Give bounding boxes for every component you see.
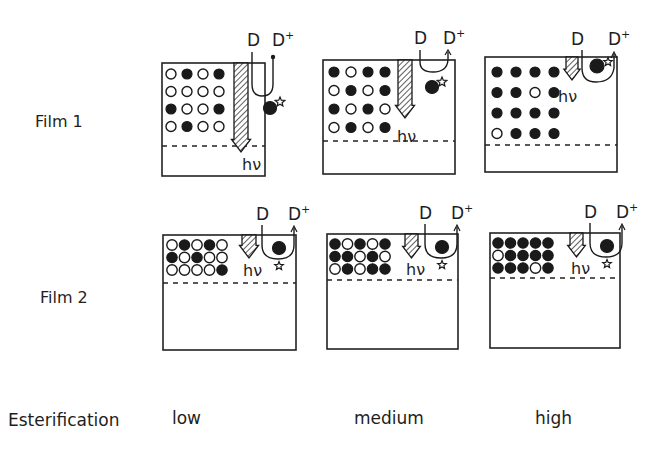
- esterified-site-filled-circle: [167, 252, 177, 262]
- dye-label: D: [414, 28, 427, 48]
- dye-molecule-icon: [590, 59, 604, 73]
- esterified-site-filled-circle: [342, 264, 352, 274]
- light-beam-arrow: [568, 233, 586, 257]
- free-site-open-circle: [492, 129, 502, 139]
- esterified-site-filled-circle: [549, 108, 559, 118]
- column-label-low: low: [172, 408, 201, 428]
- esterification-film-diagram: Film 1 Film 2 Esterification low medium …: [0, 0, 649, 462]
- free-site-open-circle: [179, 252, 189, 262]
- loop-end-dot: [271, 55, 275, 59]
- excited-star-icon: [438, 261, 447, 269]
- esterified-site-filled-circle: [549, 67, 559, 77]
- esterified-site-filled-circle: [505, 263, 515, 273]
- esterified-site-filled-circle: [492, 67, 502, 77]
- esterified-site-filled-circle: [363, 67, 373, 77]
- free-site-open-circle: [329, 123, 339, 133]
- dye-label: D: [256, 204, 269, 224]
- panel-film2-medium: hνDD+: [327, 202, 473, 349]
- dye-cation-label: D+: [608, 28, 630, 49]
- free-site-open-circle: [166, 122, 176, 132]
- esterified-site-filled-circle: [543, 263, 553, 273]
- esterified-site-filled-circle: [511, 129, 521, 139]
- excited-star-icon: [275, 97, 285, 106]
- free-site-open-circle: [355, 251, 365, 261]
- panels-group: hνDD+hνDD+hνDD+hνDD+hνDD+hνDD+: [162, 27, 638, 350]
- free-site-open-circle: [167, 240, 177, 250]
- free-site-open-circle: [204, 252, 214, 262]
- dye-cation-label: D+: [451, 202, 473, 223]
- photon-hv-label: hν: [242, 155, 261, 174]
- free-site-open-circle: [380, 251, 390, 261]
- esterified-site-filled-circle: [342, 251, 352, 261]
- free-site-open-circle: [198, 69, 208, 79]
- esterified-site-filled-circle: [329, 67, 339, 77]
- photon-hv-label: hν: [397, 127, 416, 146]
- free-site-open-circle: [346, 67, 356, 77]
- esterified-site-filled-circle: [493, 238, 503, 248]
- esterified-site-filled-circle: [493, 263, 503, 273]
- esterified-site-filled-circle: [217, 265, 227, 275]
- light-beam-arrow: [239, 235, 258, 258]
- light-beam-arrow: [395, 60, 414, 118]
- column-label-medium: medium: [354, 408, 424, 428]
- free-site-open-circle: [214, 87, 224, 97]
- esterified-site-filled-circle: [505, 238, 515, 248]
- esterified-site-filled-circle: [530, 238, 540, 248]
- free-site-open-circle: [192, 265, 202, 275]
- dye-cation-label: D+: [443, 27, 465, 48]
- free-site-open-circle: [530, 263, 540, 273]
- esterified-site-filled-circle: [204, 240, 214, 250]
- esterified-site-filled-circle: [182, 69, 192, 79]
- excited-star-icon: [604, 58, 613, 66]
- esterified-site-filled-circle: [380, 67, 390, 77]
- free-site-open-circle: [179, 265, 189, 275]
- panel-film1-low: hνDD+: [162, 29, 294, 176]
- esterified-site-filled-circle: [192, 252, 202, 262]
- free-site-open-circle: [166, 87, 176, 97]
- free-site-open-circle: [493, 250, 503, 260]
- esterified-site-filled-circle: [543, 250, 553, 260]
- panel-film2-low: hνDD+: [163, 203, 310, 350]
- esterified-site-filled-circle: [530, 108, 540, 118]
- esterified-site-filled-circle: [346, 123, 356, 133]
- panel-film1-high: hνDD+: [485, 28, 630, 172]
- free-site-open-circle: [380, 104, 390, 114]
- free-site-open-circle: [182, 104, 192, 114]
- dye-cation-label: D+: [272, 29, 294, 50]
- free-site-open-circle: [363, 123, 373, 133]
- esterified-site-filled-circle: [380, 123, 390, 133]
- free-site-open-circle: [217, 240, 227, 250]
- excited-star-icon: [275, 262, 284, 270]
- esterified-site-filled-circle: [511, 67, 521, 77]
- light-beam-arrow: [403, 234, 421, 258]
- esterified-site-filled-circle: [166, 104, 176, 114]
- free-site-open-circle: [367, 239, 377, 249]
- photon-hv-label: hν: [406, 260, 425, 279]
- esterified-site-filled-circle: [355, 239, 365, 249]
- esterified-site-filled-circle: [511, 108, 521, 118]
- free-site-open-circle: [192, 240, 202, 250]
- free-site-open-circle: [198, 104, 208, 114]
- free-site-open-circle: [204, 265, 214, 275]
- esterified-site-filled-circle: [380, 239, 390, 249]
- esterified-site-filled-circle: [518, 263, 528, 273]
- row-label-film-2: Film 2: [40, 288, 88, 307]
- esterified-site-filled-circle: [380, 86, 390, 96]
- free-site-open-circle: [363, 86, 373, 96]
- light-beam-arrow: [231, 63, 250, 152]
- dye-cation-label: D+: [288, 203, 310, 224]
- dye-molecule-icon: [264, 102, 277, 115]
- free-site-open-circle: [214, 122, 224, 132]
- esterified-site-filled-circle: [549, 129, 559, 139]
- free-site-open-circle: [530, 88, 540, 98]
- free-site-open-circle: [198, 122, 208, 132]
- esterified-site-filled-circle: [330, 251, 340, 261]
- photon-hv-label: hν: [243, 261, 262, 280]
- free-site-open-circle: [329, 86, 339, 96]
- esterified-site-filled-circle: [518, 250, 528, 260]
- row-label-film-1: Film 1: [35, 112, 83, 131]
- photon-hv-label: hν: [571, 259, 590, 278]
- esterified-site-filled-circle: [179, 240, 189, 250]
- esterified-site-filled-circle: [505, 250, 515, 260]
- free-site-open-circle: [167, 265, 177, 275]
